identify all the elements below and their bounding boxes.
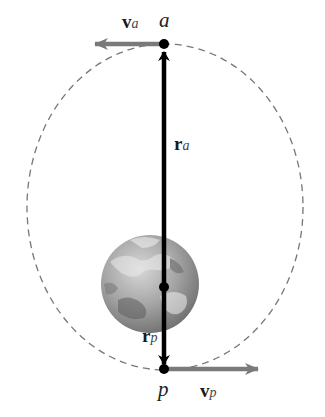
apoapsis-point [159, 39, 169, 49]
periapsis-point [159, 364, 169, 374]
apoapsis-label: a [159, 8, 170, 33]
earth-icon [101, 235, 199, 333]
periapsis-label: p [158, 377, 169, 402]
v-p-label: vp [200, 380, 217, 402]
r-p-label: rp [142, 325, 157, 347]
orbit-diagram: va a ra rp p vp [0, 0, 325, 417]
v-a-label: va [122, 11, 139, 33]
r-a-label: ra [174, 133, 189, 155]
focus-point [159, 282, 169, 292]
orbit-graphic [0, 0, 325, 417]
